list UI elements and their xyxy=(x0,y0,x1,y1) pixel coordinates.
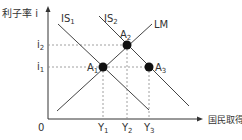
a1-label: A1 xyxy=(87,62,98,75)
origin-label: 0 xyxy=(38,122,44,133)
y-axis-label: 利子率 i xyxy=(2,7,38,19)
tick-i2: i2 xyxy=(37,39,44,52)
tick-y2: Y2 xyxy=(121,122,133,135)
point-a1 xyxy=(99,63,108,72)
x-axis-arrow-icon xyxy=(197,117,203,122)
is2-label: IS2 xyxy=(104,13,118,26)
is2-curve xyxy=(99,16,189,106)
point-a3 xyxy=(145,63,154,72)
y-axis-arrow-icon xyxy=(46,6,51,12)
a2-label: A2 xyxy=(120,29,131,42)
tick-y1: Y1 xyxy=(97,122,109,135)
x-axis-label: 国民取得 Y xyxy=(208,114,242,125)
tick-y3: Y3 xyxy=(143,122,155,135)
tick-i1: i1 xyxy=(37,61,44,74)
lm-label: LM xyxy=(154,19,168,30)
is-lm-diagram: 利子率 i 国民取得 Y 0 IS1 IS2 LM A1 A2 A3 i2 i1… xyxy=(0,0,242,140)
is1-label: IS1 xyxy=(61,13,75,26)
